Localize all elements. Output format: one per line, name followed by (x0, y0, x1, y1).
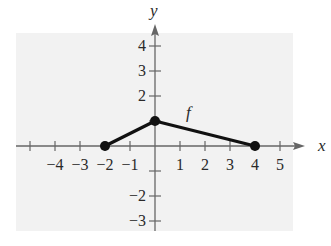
y-tick-label: −2 (129, 187, 146, 204)
y-tick-label: 2 (138, 87, 146, 104)
x-tick-label: 2 (201, 156, 209, 173)
y-tick-label: −3 (129, 212, 146, 229)
data-point (100, 141, 110, 151)
plot-svg: −4−3−2−112345432−2−3 x y f (0, 0, 331, 246)
x-tick-label: 3 (226, 156, 234, 173)
x-axis-label: x (317, 136, 326, 155)
y-tick-label: 3 (138, 62, 146, 79)
x-tick-label: 1 (176, 156, 184, 173)
y-tick-label: 4 (138, 37, 146, 54)
x-tick-label: −4 (46, 156, 63, 173)
x-tick-label: 4 (251, 156, 259, 173)
data-point (250, 141, 260, 151)
x-tick-label: −3 (71, 156, 88, 173)
y-axis-label: y (148, 1, 158, 20)
data-point (150, 116, 160, 126)
x-tick-label: 5 (276, 156, 284, 173)
function-graph: −4−3−2−112345432−2−3 x y f (0, 0, 331, 246)
x-tick-label: −2 (96, 156, 113, 173)
x-tick-label: −1 (121, 156, 138, 173)
